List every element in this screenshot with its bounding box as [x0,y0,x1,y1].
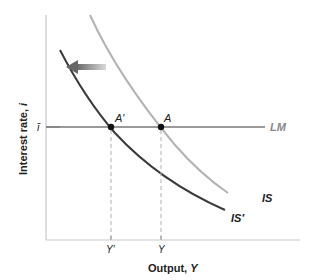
y-tick-label: Y [158,244,166,255]
point-a-label: A [163,112,171,124]
is-prime-label: IS′ [231,212,245,224]
is-label: IS [262,192,273,204]
x-axis-title-text: Output, [148,262,190,274]
i-bar-label: ī [37,121,41,133]
x-axis-title-var: Y [190,262,199,274]
point-a-prime [108,124,114,130]
y-axis-title-var: i [17,102,29,106]
point-a-prime-label: A′ [114,112,125,124]
y-axis-title: Interest rate, i [17,102,29,175]
lm-label: LM [270,121,287,133]
is-prime-curve [60,50,225,210]
y-axis-title-text: Interest rate, [17,106,29,175]
y-prime-tick-label: Y′ [106,244,116,255]
is-lm-chart: A′ A LM IS IS′ ī Y′ Y Output, Y Interest… [0,0,311,280]
x-axis-title: Output, Y [148,262,199,274]
point-a [158,124,164,130]
